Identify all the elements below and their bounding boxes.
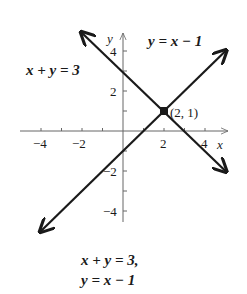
y-tick-label: −4 xyxy=(103,204,117,219)
intersection-point-label: (2, 1) xyxy=(170,105,198,120)
caption-line-1: x + y = 3, xyxy=(81,250,139,270)
caption: x + y = 3, y = x − 1 xyxy=(81,250,139,290)
x-tick-label: −2 xyxy=(72,136,86,151)
y-tick-label: 2 xyxy=(110,84,117,99)
line-x-plus-y-eq-3 xyxy=(82,33,226,171)
x-tick-label: 2 xyxy=(160,136,167,151)
y-tick-label: −2 xyxy=(103,164,117,179)
y-axis xyxy=(123,33,127,222)
y-tick-label: 4 xyxy=(110,44,117,59)
x-tick-label: −4 xyxy=(33,136,47,151)
line-y-eq-x-minus-1 xyxy=(41,51,226,231)
line-label-y-eq-x-minus-1: y = x − 1 xyxy=(146,33,202,49)
x-axis-label: x xyxy=(216,137,223,152)
line-label-x-plus-y-eq-3: x + y = 3 xyxy=(25,62,80,78)
y-axis-label: y xyxy=(105,31,113,46)
caption-line-2: y = x − 1 xyxy=(81,270,139,290)
intersection-point-marker xyxy=(160,107,168,115)
x-axis xyxy=(20,128,228,131)
